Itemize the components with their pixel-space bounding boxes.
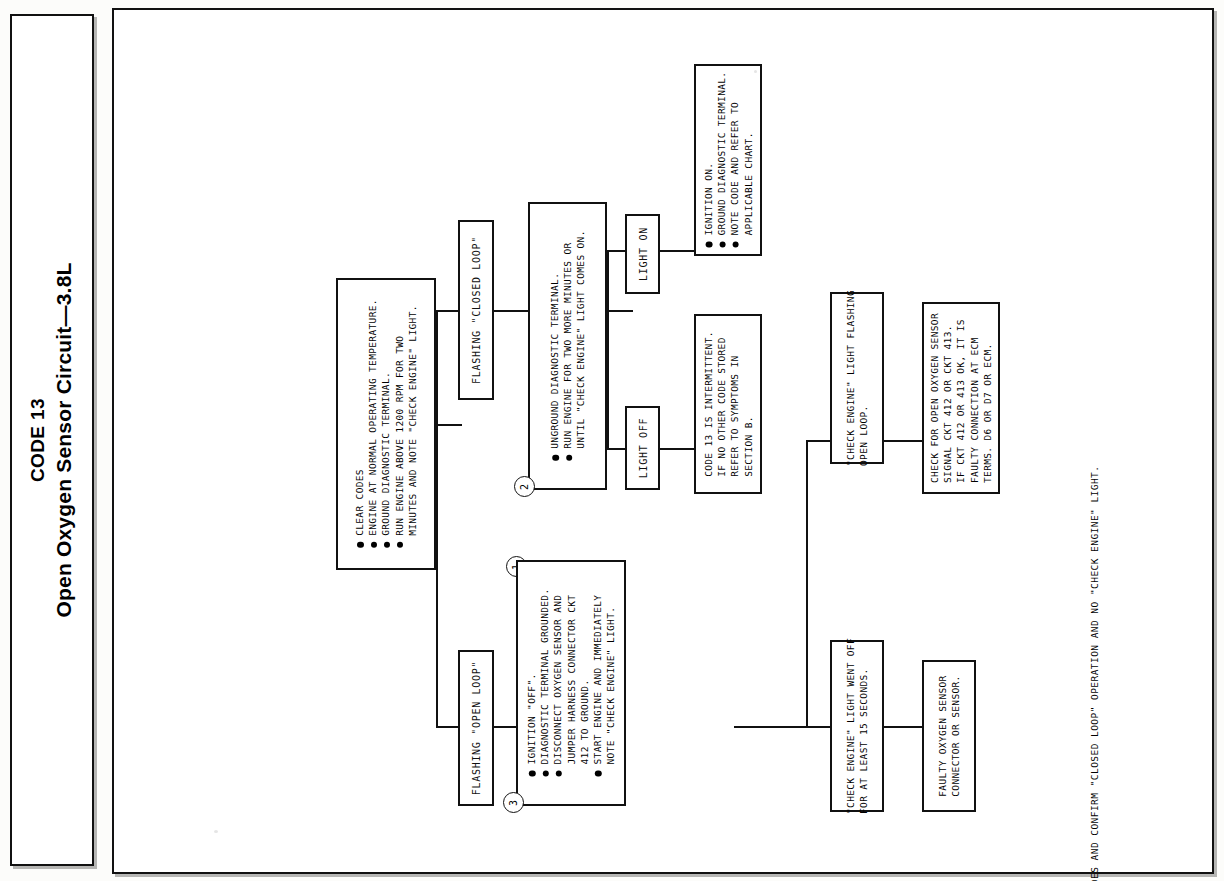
bullet-line: CLEAR CODES	[353, 299, 366, 549]
connector-open-to-step3	[494, 726, 516, 728]
node-ignition-on-refer-chart: IGNITION ON. GROUND DIAGNOSTIC TERMINAL.…	[694, 64, 762, 256]
continuation-line: UNTIL "CHECK ENGINE" LIGHT COMES ON.	[574, 230, 587, 462]
node-text-block: CLEAR CODES ENGINE AT NORMAL OPERATING T…	[353, 299, 419, 549]
text-line: FAULTY OXYGEN SENSOR	[936, 675, 949, 796]
node-text-block: CODE 13 IS INTERMITTENT. IF NO OTHER COD…	[702, 331, 755, 477]
node-text-block: CHECK FOR OPEN OXYGEN SENSOR SIGNAL CKT …	[928, 313, 994, 483]
title-name: Open Oxygen Sensor Circuit—3.8L	[50, 262, 77, 617]
title-banner-panel: CODE 13 Open Oxygen Sensor Circuit—3.8L	[10, 14, 94, 866]
text-line: CHECK FOR OPEN OXYGEN SENSOR	[928, 313, 941, 483]
bullet-line: RUN ENGINE ABOVE 1200 RPM FOR TWO	[393, 299, 406, 549]
connector-to-light-off	[607, 448, 625, 450]
connector-lighton-to-ignition	[660, 250, 694, 252]
text-line: FOR AT LEAST 15 SECONDS.	[857, 638, 870, 814]
node-check-engine-light-flashing: "CHECK ENGINE" LIGHT FLASHING OPEN LOOP.	[830, 292, 884, 464]
text-line: CODE 13 IS INTERMITTENT.	[702, 331, 715, 477]
bullet-line: ENGINE AT NORMAL OPERATING TEMPERATURE.	[366, 299, 379, 549]
flowchart-panel: CLEAR CODES ENGINE AT NORMAL OPERATING T…	[112, 8, 1214, 874]
bullet-line: DIAGNOSTIC TERMINAL GROUNDED.	[538, 588, 551, 777]
continuation-line: JUMPER HARNESS CONNECTOR CKT	[564, 588, 577, 777]
node-flashing-open-loop: FLASHING "OPEN LOOP"	[458, 650, 494, 806]
text-line: "CHECK ENGINE" LIGHT FLASHING	[844, 290, 857, 466]
bullet-line: IGNITION ON.	[702, 72, 715, 249]
node-label: FLASHING "CLOSED LOOP"	[471, 236, 482, 384]
text-line: CONNECTOR OR SENSOR.	[949, 675, 962, 796]
continuation-line: MINUTES AND NOTE "CHECK ENGINE" LIGHT.	[406, 299, 419, 549]
step-marker-3: 3	[503, 792, 524, 813]
flowchart-canvas: CLEAR CODES ENGINE AT NORMAL OPERATING T…	[114, 10, 1212, 872]
bullet-line: GROUND DIAGNOSTIC TERMINAL.	[715, 72, 728, 249]
connector-flashing-to-check	[884, 440, 922, 442]
node-check-engine-light-went-off: "CHECK ENGINE" LIGHT WENT OFF FOR AT LEA…	[830, 640, 884, 812]
bullet-line: UNGROUND DIAGNOSTIC TERMINAL.	[548, 230, 561, 462]
connector-trunk-light	[607, 250, 609, 450]
bullet-line: DISCONNECT OXYGEN SENSOR AND	[551, 588, 564, 777]
continuation-line: 412 TO GROUND.	[578, 588, 591, 777]
text-line: IF CKT 412 OR 413 OK, IT IS	[954, 313, 967, 483]
text-line: "CHECK ENGINE" LIGHT WENT OFF	[844, 638, 857, 814]
scan-speckle	[754, 70, 757, 73]
connector-to-flashing-closed	[436, 310, 458, 312]
node-label: LIGHT ON	[637, 227, 648, 281]
node-initial-conditions: CLEAR CODES ENGINE AT NORMAL OPERATING T…	[336, 278, 436, 570]
text-line: SECTION B.	[741, 331, 754, 477]
bullet-line: START ENGINE AND IMMEDIATELY	[591, 588, 604, 777]
bullet-line: GROUND DIAGNOSTIC TERMINAL.	[379, 299, 392, 549]
connector-lightoff-to-intermittent	[660, 448, 694, 450]
continuation-line: NOTE "CHECK ENGINE" LIGHT.	[604, 588, 617, 777]
node-light-off: LIGHT OFF	[625, 406, 660, 490]
bullet-line: IGNITION "OFF".	[525, 588, 538, 777]
page-title: CODE 13 Open Oxygen Sensor Circuit—3.8L	[26, 262, 77, 617]
title-code: CODE 13	[26, 262, 50, 617]
connector-to-light-wentoff	[806, 726, 830, 728]
text-line: TERMS. D6 OR D7 OR ECM.	[981, 313, 994, 483]
node-label: FLASHING "OPEN LOOP"	[471, 661, 482, 795]
connector-to-light-on	[607, 250, 625, 252]
text-line: REFER TO SYMPTOMS IN	[728, 331, 741, 477]
text-line: FAULTY CONNECTION AT ECM	[968, 313, 981, 483]
text-line: IF NO OTHER CODE STORED	[715, 331, 728, 477]
node-code-13-intermittent: CODE 13 IS INTERMITTENT. IF NO OTHER COD…	[694, 314, 762, 494]
connector-trunk-main	[436, 310, 438, 728]
connector-step1-out	[436, 424, 462, 426]
node-faulty-oxygen-sensor: FAULTY OXYGEN SENSOR CONNECTOR OR SENSOR…	[922, 660, 976, 812]
text-line: OPEN LOOP.	[857, 290, 870, 466]
connector-to-flashing-open	[436, 726, 458, 728]
node-flashing-closed-loop: FLASHING "CLOSED LOOP"	[458, 220, 494, 400]
node-text-block: IGNITION ON. GROUND DIAGNOSTIC TERMINAL.…	[702, 72, 755, 249]
connector-wentoff-to-faulty	[884, 726, 922, 728]
bullet-line: NOTE CODE AND REFER TO	[728, 72, 741, 249]
node-text-block: "CHECK ENGINE" LIGHT WENT OFF FOR AT LEA…	[844, 638, 870, 814]
node-unground-terminal: UNGROUND DIAGNOSTIC TERMINAL. RUN ENGINE…	[528, 202, 607, 490]
bullet-line: RUN ENGINE FOR TWO MORE MINUTES OR	[561, 230, 574, 462]
footer-note: CLEAR CODES AND CONFIRM "CLOSED LOOP" OP…	[1074, 550, 1114, 850]
text-line: SIGNAL CKT 412 OR CKT 413.	[941, 313, 954, 483]
scan-speckle	[214, 830, 218, 833]
scanned-diagnostic-page: CODE 13 Open Oxygen Sensor Circuit—3.8L	[0, 0, 1224, 881]
node-check-open-oxygen-sensor: CHECK FOR OPEN OXYGEN SENSOR SIGNAL CKT …	[922, 302, 1000, 494]
node-ignition-off-jumper: IGNITION "OFF". DIAGNOSTIC TERMINAL GROU…	[516, 560, 626, 806]
connector-closed-to-step2	[494, 310, 528, 312]
step-marker-2: 2	[514, 476, 535, 497]
node-text-block: "CHECK ENGINE" LIGHT FLASHING OPEN LOOP.	[844, 290, 870, 466]
connector-step2-out	[607, 310, 633, 312]
node-text-block: IGNITION "OFF". DIAGNOSTIC TERMINAL GROU…	[525, 588, 617, 777]
connector-to-light-flashing	[806, 440, 830, 442]
connector-step3-out	[734, 726, 806, 728]
continuation-line: APPLICABLE CHART.	[741, 72, 754, 249]
connector-trunk-results	[806, 440, 808, 728]
node-text-block: UNGROUND DIAGNOSTIC TERMINAL. RUN ENGINE…	[548, 230, 588, 462]
node-light-on: LIGHT ON	[625, 214, 660, 294]
node-text-block: FAULTY OXYGEN SENSOR CONNECTOR OR SENSOR…	[936, 675, 962, 796]
node-label: LIGHT OFF	[637, 418, 648, 479]
